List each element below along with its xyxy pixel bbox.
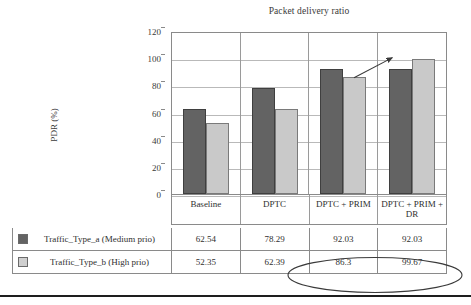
cell-series-b-baseline: 52.35 <box>172 251 241 273</box>
cell-series-b-dptc: 62.39 <box>241 251 310 273</box>
legend-entry-series-b: Traffic_Type_b (High prio) <box>13 251 172 273</box>
bar-group <box>309 33 378 194</box>
y-tick-label: 80 <box>152 81 161 91</box>
table-row: Traffic_Type_b (High prio) 52.35 62.39 8… <box>13 250 446 273</box>
legend-entry-series-a: Traffic_Type_a (Medium prio) <box>13 228 172 250</box>
bar-series-a <box>183 109 206 194</box>
y-tick-label: 0 <box>157 190 162 200</box>
y-tick-label: 100 <box>148 54 162 64</box>
y-tick-label: 60 <box>152 109 161 119</box>
y-axis-tick-labels: 020406080100120 <box>131 32 167 195</box>
legend-swatch-icon-series-b <box>18 257 28 267</box>
category-row: BaselineDPTCDPTC + PRIMDPTC + PRIM + DR <box>172 195 446 225</box>
bar-group <box>172 33 241 194</box>
y-tick-label: 20 <box>152 163 161 173</box>
y-axis-title: PDR (%) <box>49 65 59 185</box>
category-label: DPTC + PRIM + DR <box>378 195 446 224</box>
bar-pair <box>241 33 310 194</box>
bar-series-a <box>320 69 343 194</box>
category-axis-table: BaselineDPTCDPTC + PRIMDPTC + PRIM + DR <box>171 195 447 225</box>
cell-series-a-baseline: 62.54 <box>172 228 241 250</box>
cell-series-a-dptc-prim: 92.03 <box>310 228 379 250</box>
data-table: Traffic_Type_a (Medium prio) 62.54 78.29… <box>12 228 447 274</box>
y-tick-mark <box>161 163 165 164</box>
y-tick-mark <box>161 136 165 137</box>
bar-pair <box>172 33 241 194</box>
bar-series-b <box>412 59 435 194</box>
table-row: Traffic_Type_a (Medium prio) 62.54 78.29… <box>13 228 446 250</box>
y-tick-mark <box>161 81 165 82</box>
y-tick-mark <box>161 27 165 28</box>
y-tick-label: 40 <box>152 136 161 146</box>
category-label: DPTC + PRIM <box>310 195 379 224</box>
bar-series-b <box>206 123 229 194</box>
y-tick-label: 120 <box>148 27 162 37</box>
legend-label-series-b: Traffic_Type_b (High prio) <box>33 257 166 268</box>
y-tick-mark <box>161 190 165 191</box>
category-label: DPTC <box>241 195 310 224</box>
bar-groups <box>172 33 446 194</box>
cell-series-a-dptc: 78.29 <box>241 228 310 250</box>
bar-pair <box>309 33 378 194</box>
bar-group <box>378 33 447 194</box>
bar-group <box>241 33 310 194</box>
bottom-divider <box>0 295 471 297</box>
chart-title: Packet delivery ratio <box>171 6 447 16</box>
plot-area <box>171 32 447 195</box>
category-label: Baseline <box>172 195 241 224</box>
bar-series-a <box>252 88 275 194</box>
cell-series-b-dptc-prim: 86.3 <box>310 251 379 273</box>
bar-series-b <box>343 77 366 194</box>
bar-pair <box>378 33 447 194</box>
bar-series-b <box>275 109 298 194</box>
y-tick-mark <box>161 54 165 55</box>
bar-series-a <box>389 69 412 194</box>
cell-series-a-dptc-prim-dr: 92.03 <box>378 228 446 250</box>
y-tick-mark <box>161 109 165 110</box>
legend-swatch-icon-series-a <box>18 234 28 244</box>
cell-series-b-dptc-prim-dr: 99.67 <box>378 251 446 273</box>
legend-label-series-a: Traffic_Type_a (Medium prio) <box>33 234 166 245</box>
chart-figure: Packet delivery ratio PDR (%) 0204060801… <box>0 0 471 305</box>
